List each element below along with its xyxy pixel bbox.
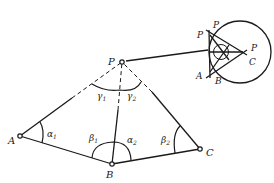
label-beta1: β1 bbox=[88, 133, 98, 144]
alpha1-arc bbox=[40, 122, 43, 143]
inset-bisector-2 bbox=[210, 45, 229, 72]
pointer-line bbox=[126, 50, 208, 61]
point-b-marker bbox=[110, 162, 114, 166]
point-p-marker bbox=[120, 60, 124, 64]
inset-detail: P P P A B C bbox=[195, 20, 271, 86]
point-a-marker bbox=[18, 134, 22, 138]
beta1-alpha2-arc bbox=[92, 142, 131, 160]
line-b-toward-p bbox=[112, 110, 118, 164]
label-alpha2: α2 bbox=[127, 135, 137, 146]
label-b: B bbox=[105, 169, 113, 180]
label-beta2: β2 bbox=[160, 135, 170, 146]
inset-label-p-right: P bbox=[250, 43, 258, 53]
label-gamma2: γ2 bbox=[127, 91, 136, 102]
inset-line-3 bbox=[206, 50, 247, 78]
line-c-toward-p bbox=[152, 92, 200, 149]
gamma-arc bbox=[92, 82, 141, 90]
inset-label-b: B bbox=[214, 76, 222, 86]
line-a-b bbox=[20, 136, 112, 164]
label-gamma1: γ1 bbox=[97, 91, 106, 102]
line-b-c bbox=[112, 149, 200, 164]
point-c-marker bbox=[198, 147, 202, 151]
label-c: C bbox=[206, 147, 214, 158]
line-a-toward-p bbox=[20, 98, 72, 136]
inset-label-a: A bbox=[195, 71, 203, 81]
inset-line-2 bbox=[206, 30, 247, 55]
inset-label-p-top: P bbox=[212, 20, 220, 30]
label-alpha1: α1 bbox=[47, 129, 57, 140]
inset-line-1 bbox=[209, 30, 210, 78]
resection-diagram: P A B C γ1 γ2 α1 β1 α2 β2 P P P A B C bbox=[0, 0, 274, 183]
beta2-arc bbox=[174, 126, 180, 153]
label-a: A bbox=[7, 135, 15, 146]
inset-label-p-left: P bbox=[196, 30, 204, 40]
inset-label-c: C bbox=[249, 57, 256, 67]
label-p: P bbox=[107, 56, 115, 67]
dashed-line-b-p bbox=[118, 62, 122, 110]
